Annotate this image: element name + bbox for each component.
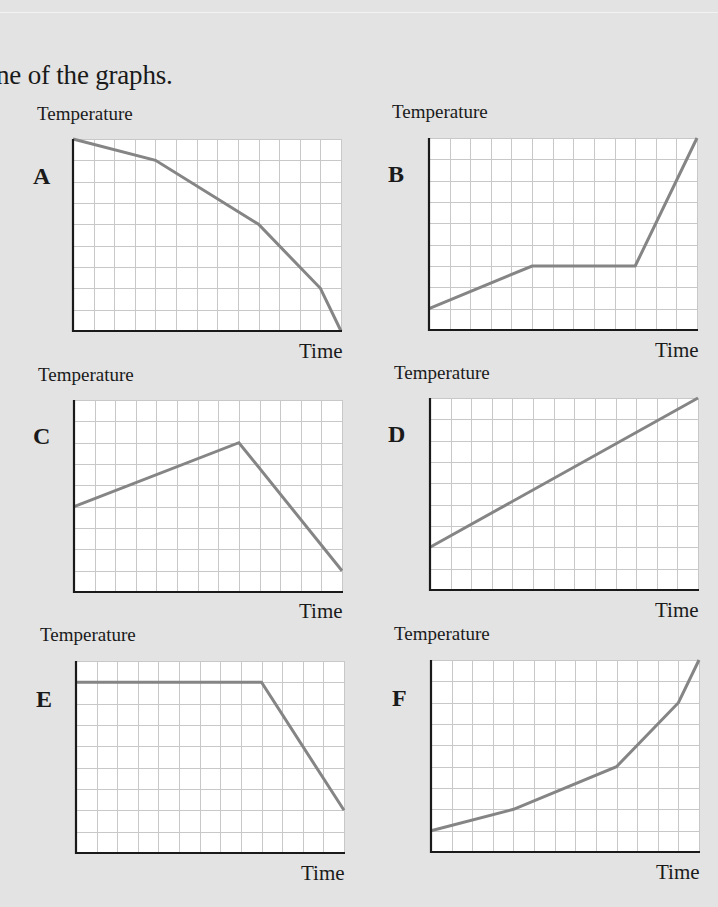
- graph-letter: A: [33, 163, 50, 190]
- plot-area: [76, 661, 345, 854]
- plot-area: [74, 400, 343, 593]
- y-axis-label: Temperature: [38, 364, 134, 386]
- x-axis-label: Time: [655, 598, 699, 623]
- y-axis-label: Temperature: [394, 623, 490, 645]
- instruction-heading: ne of the graphs.: [0, 60, 173, 91]
- graph-letter: D: [388, 421, 405, 448]
- y-axis-label: Temperature: [37, 103, 133, 125]
- graph-letter: B: [388, 161, 404, 188]
- y-axis-label: Temperature: [394, 362, 490, 384]
- x-axis-label: Time: [299, 339, 343, 364]
- x-axis-label: Time: [655, 338, 699, 363]
- plot-area: [430, 398, 699, 591]
- graph-letter: E: [36, 686, 52, 713]
- x-axis-label: Time: [301, 861, 345, 886]
- page-top-edge: [0, 0, 718, 13]
- y-axis-label: Temperature: [40, 624, 136, 646]
- graph-letter: F: [392, 685, 407, 712]
- x-axis-label: Time: [656, 860, 700, 885]
- x-axis-label: Time: [299, 599, 343, 624]
- y-axis-label: Temperature: [392, 101, 488, 123]
- plot-area: [73, 139, 342, 332]
- graph-letter: C: [33, 423, 50, 450]
- plot-area: [429, 138, 698, 331]
- plot-area: [431, 660, 700, 853]
